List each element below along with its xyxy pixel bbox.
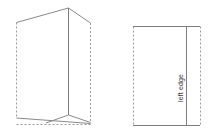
perspective-figure-group — [17, 8, 91, 125]
perspective-left-panel-top-edge — [17, 8, 69, 23]
diagram-canvas: left edge — [0, 0, 212, 138]
folded-card-diagram-svg: left edge — [0, 0, 212, 138]
perspective-right-panel-top-edge — [69, 8, 91, 23]
flat-figure-group: left edge — [133, 27, 201, 126]
flat-left-edge-label: left edge — [177, 74, 185, 102]
perspective-right-panel-bottom-edge — [69, 115, 91, 123]
